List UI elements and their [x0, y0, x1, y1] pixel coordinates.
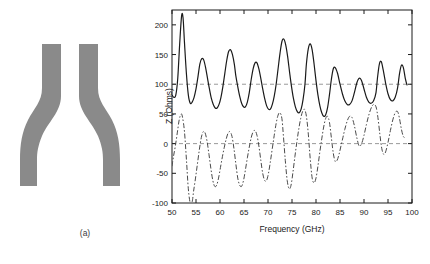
x-tick-labels: 50556065707580859095100 [168, 208, 420, 217]
y-tick-label: -100 [152, 199, 169, 208]
taper-diagram-svg [0, 0, 160, 264]
panel-a-diagram: (a) [0, 0, 160, 264]
impedance-chart: 50556065707580859095100 -100-50050100150… [160, 0, 430, 264]
x-tick-label: 100 [405, 208, 419, 217]
y-axis-title: Z (Ohms) [164, 88, 174, 124]
x-tick-label: 70 [264, 208, 273, 217]
x-tick-label: 50 [168, 208, 177, 217]
y-tick-label: -50 [156, 169, 168, 178]
figure-container: (a) 50556065707580859095100 -100-5005010… [0, 0, 430, 264]
y-tick-label: 100 [155, 80, 169, 89]
x-tick-label: 60 [216, 208, 225, 217]
x-tick-label: 90 [360, 208, 369, 217]
right-conductor-shape [79, 44, 120, 186]
plot-area [172, 10, 412, 204]
x-tick-label: 75 [288, 208, 297, 217]
y-tick-label: 200 [155, 21, 169, 30]
x-tick-label: 55 [192, 208, 201, 217]
panel-b-chart: 50556065707580859095100 -100-50050100150… [160, 0, 430, 264]
x-tick-label: 95 [384, 208, 393, 217]
x-tick-label: 65 [240, 208, 249, 217]
caption-a: (a) [65, 228, 105, 238]
x-axis-title: Frequency (GHz) [259, 224, 324, 234]
x-tick-label: 80 [312, 208, 321, 217]
y-tick-label: 150 [155, 51, 169, 60]
left-conductor-shape [20, 44, 61, 186]
x-tick-label: 85 [336, 208, 345, 217]
y-tick-label: 0 [164, 140, 169, 149]
